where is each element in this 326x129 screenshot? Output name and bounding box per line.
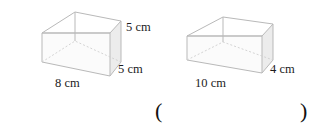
left-box-top-rim [42, 12, 121, 33]
open-rectangular-box-right: 4 cm 10 cm [163, 0, 326, 100]
right-box-width-label: 10 cm [195, 77, 226, 90]
open-rectangular-box-left: 5 cm 5 cm 8 cm [0, 0, 163, 100]
right-box-top-rim [187, 17, 273, 36]
figure-canvas: 5 cm 5 cm 8 cm [0, 0, 326, 129]
right-box-drawing [163, 0, 326, 100]
right-box-depth-label: 4 cm [270, 63, 295, 76]
left-box-front-face-shade [42, 33, 110, 76]
left-box-width-label: 8 cm [55, 77, 80, 90]
answer-open-paren: ( [155, 97, 162, 125]
answer-blank-row: ( ) [0, 97, 326, 129]
answer-close-paren: ) [300, 97, 307, 125]
left-box-drawing [0, 0, 163, 100]
left-box-height-label: 5 cm [126, 21, 151, 34]
left-box-depth-label: 5 cm [118, 63, 143, 76]
